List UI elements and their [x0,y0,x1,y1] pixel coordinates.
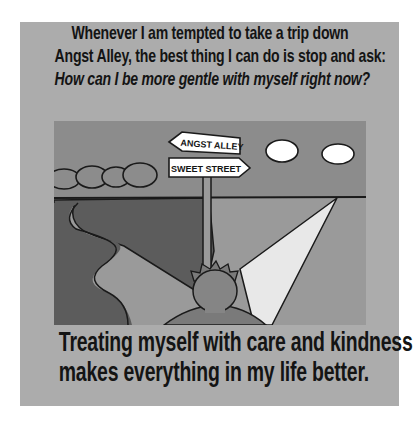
cloud-2 [322,144,354,164]
cloud-1 [266,140,298,162]
header-line-2: Angst Alley, the best thing I can do is … [55,45,366,67]
footer-line-2: makes everything in my life better. [59,357,361,388]
footer-line-1: Treating myself with care and kindness [59,327,361,358]
header-line-1: Whenever I am tempted to take a trip dow… [55,22,366,44]
header-question: How can I be more gentle with myself rig… [55,68,366,90]
crossroads-illustration: ANGST ALLEY SWEET STREET [54,121,366,325]
sign-sweet-street-label: SWEET STREET [171,164,242,174]
person-neck [205,303,225,313]
